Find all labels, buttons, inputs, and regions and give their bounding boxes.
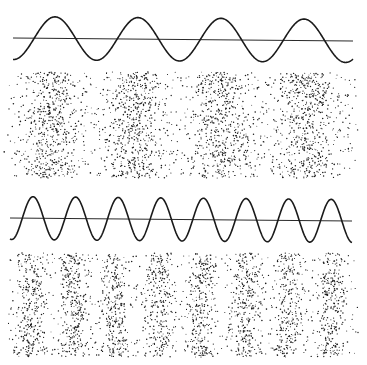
baseline-axis-low — [13, 38, 353, 41]
panel-low-frequency — [3, 17, 358, 179]
sound-wave-diagram — [0, 0, 367, 365]
particle-density-low-frequency — [3, 71, 358, 178]
baseline-axis-high — [10, 218, 352, 221]
particle-density-high-frequency — [8, 252, 359, 357]
panel-high-frequency — [8, 197, 359, 358]
